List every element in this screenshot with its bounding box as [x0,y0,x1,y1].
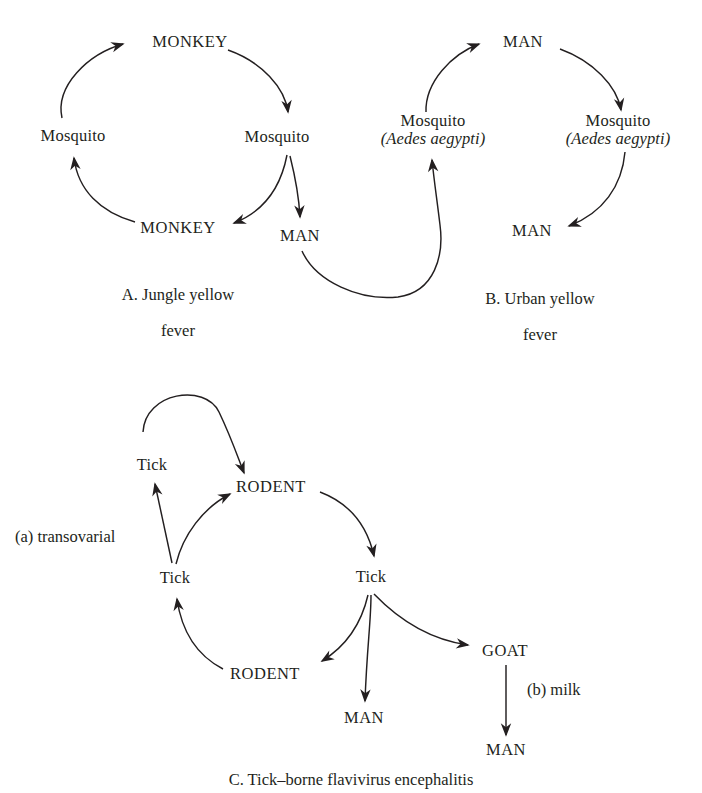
node-a-mosquito-left: Mosquito [41,127,106,145]
caption-panel-b-line1: B. Urban yellow [485,290,595,308]
node-c-goat: GOAT [482,642,528,660]
node-b-mosquito-left: Mosquito (Aedes aegypti) [381,112,486,149]
node-c-tick-right: Tick [356,568,386,586]
node-b-man-top: MAN [503,33,543,51]
edge-c-tickright-to-mancenter [365,595,371,701]
node-c-tick-upper: Tick [137,456,167,474]
caption-panel-b: B. Urban yellow fever [485,272,595,363]
caption-panel-c: C. Tick–borne flavivirus encephalitis [229,753,474,793]
caption-panel-a-line2: fever [122,322,234,340]
node-c-man-center: MAN [344,709,384,727]
edge-b-mosquitoleft-to-mantop [426,44,479,112]
edge-a-mosquitoright-to-monkeybottom [234,155,287,223]
annotation-milk: (b) milk [527,680,581,700]
node-a-mosquito-right: Mosquito [245,128,310,146]
edge-c-tickleft-to-rodenttop [176,494,230,564]
edge-b-mantop-to-mosquitoright [560,49,621,110]
node-c-man-bottom: MAN [486,741,526,759]
node-b-mosquito-right-species: (Aedes aegypti) [566,130,671,148]
node-b-man-bottom: MAN [512,222,552,240]
node-c-rodent-bottom: RODENT [230,665,300,683]
edge-c-rodentbottom-to-tickleft [177,599,223,669]
edge-c-rodenttop-to-tickright [320,492,374,556]
node-b-mosquito-left-species: (Aedes aegypti) [381,130,486,148]
node-a-monkey-top: MONKEY [152,33,227,51]
edge-bridge-a-man-to-b-mosquito [302,160,441,298]
edge-a-mosquitoright-to-man [290,156,300,217]
node-b-mosquito-right: Mosquito (Aedes aegypti) [566,112,671,149]
caption-panel-a: A. Jungle yellow fever [122,268,234,359]
node-a-monkey-bottom: MONKEY [140,219,215,237]
node-a-man: MAN [280,227,320,245]
edge-a-monkeytop-to-mosquitoright [228,50,288,112]
caption-panel-b-line2: fever [485,326,595,344]
caption-panel-c-line1: C. Tick–borne flavivirus encephalitis [229,771,474,789]
edge-c-tickright-to-goat [374,594,468,645]
annotation-transovarial: (a) transovarial [15,527,115,547]
edge-a-mosquitoleft-to-monkeytop [61,44,123,118]
edge-a-monkeybottom-to-mosquitoleft [74,158,135,222]
node-c-rodent-top: RODENT [236,478,306,496]
edge-c-tickleft-to-tickupper [155,484,172,563]
node-c-tick-left: Tick [160,569,190,587]
edge-b-mosquitoright-to-manbottom [569,152,625,226]
edge-c-tickright-to-rodentbottom [322,595,368,661]
caption-panel-a-line1: A. Jungle yellow [122,286,234,304]
